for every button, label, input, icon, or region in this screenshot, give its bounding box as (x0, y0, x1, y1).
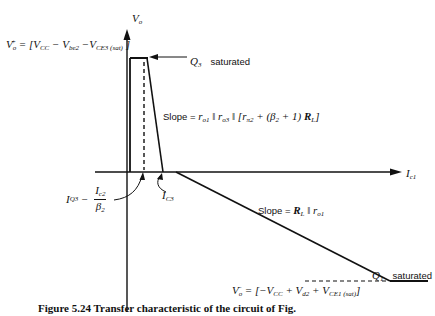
ic2-over-beta2: Ic2 β2 (94, 185, 106, 214)
vo-minus-eq: = [−V (242, 284, 273, 296)
lower-ro1-sub: o1 (317, 210, 324, 218)
ic1-axis-label-sub: c1 (410, 173, 417, 181)
q3-saturated-label: Q3 saturated (190, 52, 250, 69)
vo-plus-vcc-sub: CC (40, 44, 49, 52)
iq3-pointer-curve (114, 176, 142, 200)
vo-plus-equation: Vo+ = [VCC − Vbe2 −VCE3 (sat) ] (6, 39, 130, 52)
curve-upper-slope (147, 58, 163, 172)
vo-plus-vce3-sub: CE3 (sat) (96, 44, 123, 52)
parallel-1: ‖ (209, 110, 218, 122)
iq3-pointer-arrow-icon (140, 172, 146, 180)
q3-pointer-arrow-icon (149, 54, 158, 60)
vo-axis-label-text: V (132, 12, 139, 24)
ic3-label: IC3 (162, 190, 174, 203)
q3-device-sub: 3 (198, 61, 202, 69)
q1-state: saturated (392, 270, 432, 281)
ic1-axis-arrow-icon (390, 169, 402, 176)
fraction-denominator: β2 (96, 200, 105, 214)
ic2-sub: c2 (99, 190, 106, 198)
curve-lower-slope (176, 172, 390, 281)
q1-device: Q (372, 269, 380, 281)
vo-plus-vbe2-sub: be2 (69, 44, 79, 52)
lower-slope-prefix: Slope = (258, 205, 293, 216)
vo-plus-t2: − V (49, 38, 69, 50)
lower-parallel: ‖ (304, 204, 313, 216)
close-bracket: ] (315, 110, 319, 122)
figure-caption: Figure 5.24 Transfer characteristic of t… (38, 303, 296, 314)
vo-minus-vcc-sub: CC (273, 290, 282, 298)
upper-slope-label: Slope = ro1 ‖ ro3 ‖ [rπ2 + (β2 + 1) RL] (163, 107, 319, 124)
vo-minus-t2: + V (283, 284, 303, 296)
vo-minus-t3: + V (309, 284, 329, 296)
vo-minus-equation: Vo− = [−VCC + Vd2 + VCE1 (sat)] (232, 285, 360, 298)
ic3-pointer-arrow-icon (157, 173, 163, 180)
plus: + ( (253, 110, 270, 122)
upper-slope-prefix: Slope = (163, 111, 198, 122)
beta2-sub: 2 (101, 206, 105, 214)
q3-state: saturated (210, 56, 250, 67)
vo-plus-close: ] (123, 38, 130, 50)
iq3-lhs-sub: Q3 (70, 196, 79, 203)
q3-device: Q (190, 55, 198, 67)
q1-device-sub: 1 (380, 275, 384, 283)
plus-one: + 1) (279, 110, 304, 122)
vo-axis-label: Vo (132, 13, 142, 26)
ic3-sub: C3 (166, 195, 174, 203)
q1-saturated-label: Q1 saturated (372, 266, 432, 283)
lower-slope-label: Slope = RL ‖ ro1 (258, 201, 324, 218)
fraction-numerator: Ic2 (94, 185, 106, 200)
vo-minus-close: ] (356, 284, 360, 296)
ic1-axis-label: Ic1 (406, 168, 416, 181)
vo-minus-vce1-sub: CE1 (sat) (329, 290, 356, 298)
vo-plus-eq: = [V (16, 38, 40, 50)
iq3-minus: − (78, 194, 91, 205)
vo-plus-t3: −V (79, 38, 96, 50)
vo-axis-label-sub: o (139, 18, 143, 26)
iq3-label: IQ3 − Ic2 β2 (66, 185, 106, 214)
parallel-2: ‖ [ (229, 110, 242, 122)
